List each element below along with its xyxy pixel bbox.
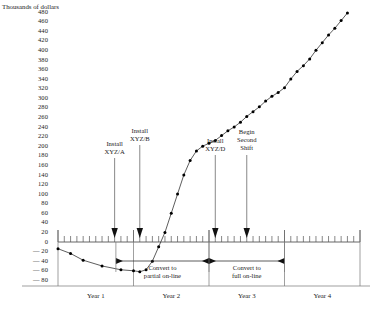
- data-point: [308, 57, 311, 60]
- annotation-arrowhead-install-xyz-d: [212, 228, 218, 238]
- period-label-year-3: Year 3: [217, 292, 277, 299]
- data-point: [57, 247, 60, 250]
- annotation-arrowhead-install-xyz-b: [137, 228, 143, 238]
- chart-container: Thousands of dollars 4804604404204003803…: [0, 0, 370, 313]
- annotation-line: Begin: [224, 128, 270, 136]
- data-point: [245, 115, 248, 118]
- period-label-year-1: Year 1: [66, 292, 126, 299]
- bracket-line-text: full on-line: [207, 272, 287, 280]
- period-label-year-4: Year 4: [292, 292, 352, 299]
- data-point: [296, 70, 299, 73]
- bracket-line-text: Convert to: [122, 264, 202, 272]
- annotation-arrows: [111, 145, 250, 238]
- data-point: [258, 105, 261, 108]
- data-point: [346, 11, 349, 14]
- annotation-label-begin-second-shift: BeginSecondShift: [224, 128, 270, 152]
- annotation-arrowhead-install-xyz-a: [111, 228, 117, 238]
- data-point: [69, 252, 72, 255]
- annotation-line: XYZ/A: [92, 148, 138, 156]
- data-point: [82, 259, 85, 262]
- data-point: [340, 19, 343, 22]
- data-point: [163, 231, 166, 234]
- data-point: [302, 64, 305, 67]
- bracket-line-text: Convert to: [207, 264, 287, 272]
- bracket-label-convert-full: Convert tofull on-line: [207, 264, 287, 280]
- data-point: [189, 159, 192, 162]
- annotation-line: Second: [224, 136, 270, 144]
- period-label-year-2: Year 2: [141, 292, 201, 299]
- data-point: [277, 91, 280, 94]
- data-point: [327, 33, 330, 36]
- data-point: [321, 41, 324, 44]
- data-point: [101, 264, 104, 267]
- data-point: [176, 193, 179, 196]
- data-point: [333, 27, 336, 30]
- data-point: [170, 212, 173, 215]
- data-point: [252, 110, 255, 113]
- bracket-line-text: partial on-line: [122, 272, 202, 280]
- data-point: [239, 121, 242, 124]
- annotation-arrowhead-begin-second-shift: [244, 228, 250, 238]
- data-point: [157, 245, 160, 248]
- data-point: [283, 86, 286, 89]
- data-point: [264, 100, 267, 103]
- data-point: [182, 173, 185, 176]
- annotation-line: Install: [117, 127, 163, 135]
- annotation-line: Shift: [224, 144, 270, 152]
- data-point: [270, 95, 273, 98]
- annotation-line: XYZ/B: [117, 135, 163, 143]
- annotation-label-install-xyz-b: InstallXYZ/B: [117, 127, 163, 143]
- data-point: [314, 49, 317, 52]
- bracket-label-convert-partial: Convert topartial on-line: [122, 264, 202, 280]
- data-point: [289, 78, 292, 81]
